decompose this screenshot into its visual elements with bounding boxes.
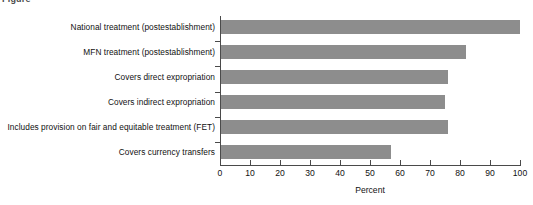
x-axis-tick-label: 80 [455,168,465,178]
x-axis-tick [400,160,401,166]
bar-row: MFN treatment (postestablishment) [0,39,533,64]
bar-row: National treatment (postestablishment) [0,14,533,39]
bar-chart: Figure National treatment (postestablish… [0,0,533,205]
x-axis-tick [430,160,431,166]
category-label: Includes provision on fair and equitable… [7,122,215,132]
bar [220,45,466,59]
category-label: Covers currency transfers [119,147,215,157]
bar-row: Covers currency transfers [0,140,533,165]
x-axis-tick-label: 40 [335,168,345,178]
bar-row: Covers direct expropriation [0,64,533,89]
y-axis-tick [215,92,220,93]
plot-area: National treatment (postestablishment)MF… [0,0,533,205]
x-axis-tick-label: 30 [305,168,315,178]
x-axis-tick [460,160,461,166]
x-axis-tick-label: 20 [275,168,285,178]
bar [220,70,448,84]
category-label: Covers indirect expropriation [108,97,215,107]
x-axis-tick [490,160,491,166]
x-axis-tick [250,160,251,166]
x-axis-tick-label: 0 [218,168,223,178]
x-axis-tick-label: 100 [513,168,527,178]
x-axis-tick-label: 50 [365,168,375,178]
bar [220,20,520,34]
category-label: Covers direct expropriation [115,72,216,82]
x-axis-tick [520,160,521,166]
x-axis-tick [310,160,311,166]
x-axis-tick-label: 60 [395,168,405,178]
y-axis-tick [215,142,220,143]
bar [220,95,445,109]
y-axis-tick [215,117,220,118]
x-axis-tick-label: 10 [245,168,255,178]
y-axis-tick [215,66,220,67]
x-axis-tick [220,160,221,166]
bar-row: Covers indirect expropriation [0,90,533,115]
x-axis-tick-label: 90 [485,168,495,178]
y-axis-tick [215,41,220,42]
bar [220,120,448,134]
x-axis-title: Percent [355,185,385,195]
bar-row: Includes provision on fair and equitable… [0,115,533,140]
x-axis-tick-label: 70 [425,168,435,178]
bar [220,145,391,159]
x-axis-tick [340,160,341,166]
x-axis-tick [280,160,281,166]
x-axis-tick [370,160,371,166]
category-label: MFN treatment (postestablishment) [83,47,215,57]
category-label: National treatment (postestablishment) [71,22,215,32]
category-rows: National treatment (postestablishment)MF… [0,14,533,165]
